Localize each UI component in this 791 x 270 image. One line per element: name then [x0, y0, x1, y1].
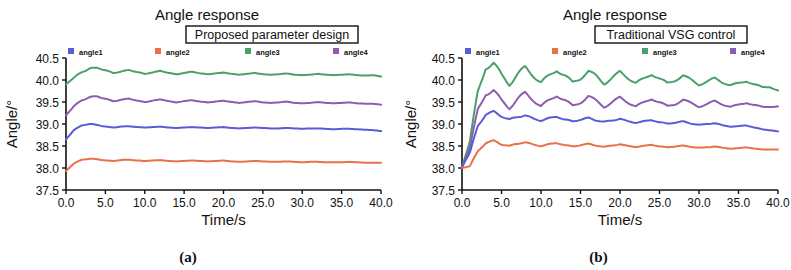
legend-marker-angle4	[730, 48, 736, 54]
x-tick-label: 5.0	[97, 196, 114, 210]
y-tick-label: 40.5	[36, 52, 60, 66]
x-tick-label: 30.0	[687, 196, 711, 210]
y-tick-label: 37.5	[432, 184, 456, 198]
y-tick-label: 37.5	[36, 184, 60, 198]
legend-label-angle2: angle2	[563, 48, 587, 57]
figure-container: Angle responseProposed parameter designa…	[0, 0, 791, 270]
series-line-angle1	[66, 124, 381, 139]
subfigure-caption-b: (b)	[403, 249, 791, 266]
x-tick-label: 15.0	[172, 196, 196, 210]
legend-marker-angle4	[333, 48, 339, 54]
y-tick-label: 38.5	[432, 140, 456, 154]
x-tick-label: 35.0	[330, 196, 354, 210]
y-tick-label: 40.0	[432, 74, 456, 88]
x-tick-label: 20.0	[608, 196, 632, 210]
x-tick-label: 10.0	[529, 196, 553, 210]
y-tick-label: 39.0	[432, 118, 456, 132]
series-line-angle1	[462, 111, 778, 167]
legend-label-angle4: angle4	[344, 48, 369, 57]
legend-marker-angle2	[155, 48, 161, 54]
legend-label-angle4: angle4	[741, 48, 766, 57]
y-tick-label: 38.0	[36, 162, 60, 176]
legend-label-angle3: angle3	[256, 48, 280, 57]
x-tick-label: 40.0	[766, 196, 790, 210]
legend-label-angle2: angle2	[166, 48, 190, 57]
legend-marker-angle1	[68, 48, 74, 54]
legend-label-angle1: angle1	[79, 48, 103, 57]
y-axis-label: Angle/°	[3, 100, 20, 149]
x-tick-label: 25.0	[648, 196, 672, 210]
chart-title: Angle response	[155, 6, 259, 23]
legend-label-angle3: angle3	[653, 48, 677, 57]
annotation-label: Traditional VSG control	[607, 28, 736, 42]
angle-response-chart-b: Angle responseTraditional VSG controlang…	[400, 0, 791, 270]
x-tick-label: 20.0	[212, 196, 236, 210]
chart-panel-a: Angle responseProposed parameter designa…	[0, 0, 400, 270]
y-tick-label: 38.5	[36, 140, 60, 154]
x-tick-label: 35.0	[727, 196, 751, 210]
y-tick-label: 38.0	[432, 162, 456, 176]
chart-title: Angle response	[563, 6, 667, 23]
series-line-angle2	[462, 140, 778, 168]
legend-label-angle1: angle1	[476, 48, 500, 57]
series-line-angle3	[462, 63, 778, 167]
chart-panel-b: Angle responseTraditional VSG controlang…	[400, 0, 791, 270]
x-axis-label: Time/s	[598, 211, 642, 228]
x-tick-label: 30.0	[291, 196, 315, 210]
y-tick-label: 39.5	[432, 96, 456, 110]
x-tick-label: 0.0	[454, 196, 471, 210]
angle-response-chart-a: Angle responseProposed parameter designa…	[0, 0, 400, 270]
x-tick-label: 40.0	[369, 196, 393, 210]
legend-marker-angle3	[245, 48, 251, 54]
x-tick-label: 0.0	[58, 196, 75, 210]
x-axis-label: Time/s	[201, 211, 245, 228]
y-axis-label: Angle/°	[402, 100, 419, 149]
subfigure-caption-a: (a)	[0, 249, 388, 266]
series-line-angle2	[66, 159, 381, 171]
series-line-angle4	[66, 96, 381, 115]
legend-marker-angle3	[642, 48, 648, 54]
x-tick-label: 10.0	[133, 196, 157, 210]
legend-marker-angle1	[465, 48, 471, 54]
series-line-angle4	[462, 90, 778, 167]
x-tick-label: 25.0	[251, 196, 275, 210]
series-line-angle3	[66, 68, 381, 85]
x-tick-label: 5.0	[493, 196, 510, 210]
y-tick-label: 40.5	[432, 52, 456, 66]
y-tick-label: 40.0	[36, 74, 60, 88]
y-tick-label: 39.5	[36, 96, 60, 110]
x-tick-label: 15.0	[569, 196, 593, 210]
y-tick-label: 39.0	[36, 118, 60, 132]
annotation-label: Proposed parameter design	[195, 28, 349, 42]
legend-marker-angle2	[552, 48, 558, 54]
